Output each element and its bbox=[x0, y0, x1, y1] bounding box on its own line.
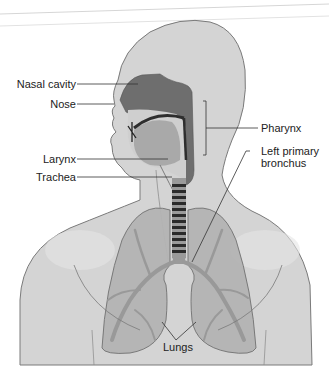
label-lungs: Lungs bbox=[163, 341, 193, 353]
label-nasal-cavity: Nasal cavity bbox=[17, 78, 76, 90]
label-trachea: Trachea bbox=[36, 171, 76, 183]
label-pharynx: Pharynx bbox=[261, 122, 301, 134]
respiratory-diagram: Nasal cavity Nose Larynx Trachea Pharynx… bbox=[0, 0, 329, 368]
anatomy-illustration bbox=[0, 0, 329, 368]
label-left-primary-bronchus-line1: Left primary bbox=[261, 145, 319, 157]
label-nose: Nose bbox=[50, 98, 76, 110]
label-larynx: Larynx bbox=[43, 153, 76, 165]
label-left-primary-bronchus-line2: bronchus bbox=[261, 157, 306, 169]
trachea-shape bbox=[172, 178, 186, 264]
